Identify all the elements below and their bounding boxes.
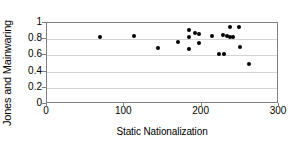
x-axis-title: Static Nationalization — [46, 126, 278, 138]
gridline — [47, 72, 277, 73]
gridline — [47, 39, 277, 40]
plot-area — [46, 22, 278, 103]
data-point — [156, 46, 160, 50]
x-tick-mark — [278, 103, 279, 107]
data-point — [247, 62, 251, 66]
data-point — [238, 45, 242, 49]
data-point — [187, 28, 191, 32]
y-axis-title: Jones and Mainwaring — [0, 0, 14, 146]
data-point — [228, 25, 232, 29]
data-point — [197, 32, 201, 36]
data-point — [217, 52, 221, 56]
x-tick-mark — [46, 103, 47, 107]
data-point — [132, 34, 136, 38]
x-tick-label: 0 — [26, 106, 66, 116]
data-point — [222, 52, 226, 56]
data-point — [187, 35, 191, 39]
data-point — [231, 35, 235, 39]
gridline — [47, 55, 277, 56]
gridline — [47, 88, 277, 89]
x-tick-label: 100 — [103, 106, 143, 116]
data-point — [197, 41, 201, 45]
scatter-chart: 00.20.40.60.81 0100200300 Jones and Main… — [0, 0, 299, 146]
y-tick-mark — [42, 54, 46, 55]
data-point — [210, 34, 214, 38]
y-tick-mark — [42, 87, 46, 88]
data-point — [187, 47, 191, 51]
x-tick-label: 300 — [258, 106, 298, 116]
y-tick-mark — [42, 38, 46, 39]
data-point — [237, 25, 241, 29]
y-tick-mark — [42, 71, 46, 72]
y-tick-mark — [42, 22, 46, 23]
x-tick-mark — [201, 103, 202, 107]
x-tick-label: 200 — [181, 106, 221, 116]
x-tick-mark — [123, 103, 124, 107]
data-point — [176, 40, 180, 44]
